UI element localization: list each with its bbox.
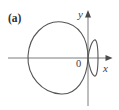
x-axis-arrowhead [106,55,113,61]
y-axis-label: y [78,9,83,20]
x-axis-label: x [103,63,108,74]
panel-label: (a) [8,13,21,25]
figure-panel: (a) y x 0 [0,0,119,110]
origin-label: 0 [76,59,81,70]
y-axis-arrowhead [85,10,91,18]
